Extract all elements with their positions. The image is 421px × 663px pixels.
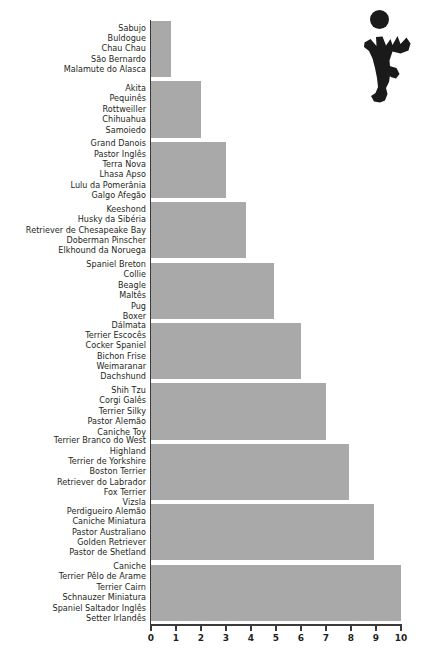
x-axis-tick-label: 2 — [189, 633, 213, 643]
x-axis-tick-label: 6 — [289, 633, 313, 643]
category-label: Doberman Pinscher — [0, 235, 146, 245]
bar — [151, 202, 246, 258]
x-axis-tick — [300, 624, 301, 631]
bar — [151, 504, 374, 560]
category-label: Terra Nova — [0, 159, 146, 169]
category-label: Fox Terrier — [0, 487, 146, 497]
category-label: Beagle — [0, 280, 146, 290]
category-label: Weimaranar — [0, 361, 146, 371]
bar-row — [151, 504, 401, 560]
category-label: Caniche Miniatura — [0, 516, 146, 526]
x-axis-tick-label: 3 — [214, 633, 238, 643]
category-label: Bichon Frise — [0, 351, 146, 361]
x-axis-tick-label: 8 — [339, 633, 363, 643]
category-label: Retriever do Labrador — [0, 477, 146, 487]
category-label: Terrier Cairn — [0, 582, 146, 592]
category-label: Perdigueiro Alemão — [0, 506, 146, 516]
category-label: Maltês — [0, 290, 146, 300]
category-label: Terrier Escocês — [0, 330, 146, 340]
category-label: Akita — [0, 83, 146, 93]
bar — [151, 444, 349, 500]
bar — [151, 21, 171, 77]
category-label: Terrier Branco do West — [0, 435, 146, 445]
category-label: Keeshond — [0, 204, 146, 214]
x-axis-tick-label: 4 — [239, 633, 263, 643]
category-label: Sabujo — [0, 23, 146, 33]
category-label: Pastor Inglês — [0, 149, 146, 159]
category-label: Grand Danois — [0, 138, 146, 148]
category-label-group: CanicheTerrier Pêlo de ArameTerrier Cair… — [0, 561, 146, 623]
x-axis-tick-label: 7 — [314, 633, 338, 643]
bar-row — [151, 202, 401, 258]
category-label: Lulu da Pomerânia — [0, 180, 146, 190]
bar — [151, 81, 201, 137]
x-axis-tick — [275, 624, 276, 631]
category-label: Lhasa Apso — [0, 169, 146, 179]
category-label: Spaniel Saltador Inglês — [0, 603, 146, 613]
bar-row — [151, 383, 401, 439]
category-label: São Bernardo — [0, 54, 146, 64]
bar — [151, 263, 274, 319]
category-label: Dachshund — [0, 371, 146, 381]
category-label: Spaniel Breton — [0, 259, 146, 269]
category-label: Pastor Australiano — [0, 527, 146, 537]
bar-row — [151, 81, 401, 137]
category-label-group: Terrier Branco do WestHighlandTerrier de… — [0, 435, 146, 507]
category-label-column: SabujoBuldogueChau ChauSão BernardoMalam… — [0, 21, 146, 625]
bar — [151, 323, 301, 379]
x-axis-tick — [175, 624, 176, 631]
bar-row — [151, 263, 401, 319]
category-label: Golden Retriever — [0, 537, 146, 547]
category-label: Elkhound da Noruega — [0, 245, 146, 255]
category-label: Rottweiller — [0, 104, 146, 114]
x-axis-tick — [250, 624, 251, 631]
category-label-group: KeeshondHusky da SibériaRetriever de Che… — [0, 204, 146, 256]
x-axis-tick — [325, 624, 326, 631]
category-label: Chau Chau — [0, 43, 146, 53]
category-label: Pug — [0, 301, 146, 311]
category-label: Pastor de Shetland — [0, 547, 146, 557]
category-label: Cocker Spaniel — [0, 340, 146, 350]
x-axis-tick — [400, 624, 401, 631]
category-label: Pastor Alemão — [0, 416, 146, 426]
category-label-group: DálmataTerrier EscocêsCocker SpanielBich… — [0, 320, 146, 382]
x-axis-tick-label: 9 — [364, 633, 388, 643]
bar-row — [151, 323, 401, 379]
category-label: Samoiedo — [0, 125, 146, 135]
category-label: Pequinês — [0, 93, 146, 103]
bar-chart: SabujoBuldogueChau ChauSão BernardoMalam… — [0, 0, 421, 663]
plot-area: SabujoBuldogueChau ChauSão BernardoMalam… — [0, 0, 421, 663]
bar — [151, 142, 226, 198]
x-axis-tick — [375, 624, 376, 631]
category-label-group: AkitaPequinêsRottweillerChihuahuaSamoied… — [0, 83, 146, 135]
category-label: Terrier de Yorkshire — [0, 456, 146, 466]
bar — [151, 383, 326, 439]
category-label: Setter Irlandês — [0, 613, 146, 623]
bar — [151, 565, 401, 621]
category-label: Terrier Silky — [0, 406, 146, 416]
bar-row — [151, 444, 401, 500]
category-label: Terrier Pêlo de Arame — [0, 571, 146, 581]
x-axis-tick — [225, 624, 226, 631]
x-axis-tick — [350, 624, 351, 631]
category-label: Shih Tzu — [0, 385, 146, 395]
x-axis-tick — [150, 624, 151, 631]
category-label: Dálmata — [0, 320, 146, 330]
category-label: Husky da Sibéria — [0, 214, 146, 224]
category-label-group: Shih TzuCorgi GalêsTerrier SilkyPastor A… — [0, 385, 146, 437]
category-label: Corgi Galês — [0, 395, 146, 405]
category-label: Caniche — [0, 561, 146, 571]
category-label: Chihuahua — [0, 114, 146, 124]
x-axis-tick-label: 0 — [139, 633, 163, 643]
category-label-group: Perdigueiro AlemãoCaniche MiniaturaPasto… — [0, 506, 146, 558]
category-label: Malamute do Alasca — [0, 64, 146, 74]
x-axis-tick — [200, 624, 201, 631]
category-label: Schnauzer Miniatura — [0, 592, 146, 602]
category-label: Collie — [0, 269, 146, 279]
category-label-group: Grand DanoisPastor InglêsTerra NovaLhasa… — [0, 138, 146, 200]
bar-row — [151, 142, 401, 198]
category-label: Galgo Afegão — [0, 190, 146, 200]
category-label: Buldogue — [0, 33, 146, 43]
bar-row — [151, 21, 401, 77]
x-axis-tick-label: 1 — [164, 633, 188, 643]
